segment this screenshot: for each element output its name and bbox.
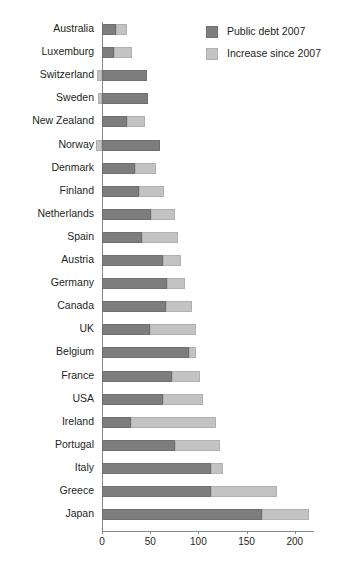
bar-segment-increase <box>98 93 102 104</box>
bar-segment-public-debt <box>102 255 163 266</box>
x-tick-label: 100 <box>178 536 218 547</box>
legend-swatch-public-debt <box>206 26 218 38</box>
bar-segment-increase <box>211 486 278 497</box>
bar-segment-public-debt <box>102 417 131 428</box>
bar-segment-increase <box>135 163 156 174</box>
category-label: Ireland <box>2 416 94 427</box>
plot-area: AustraliaLuxemburgSwitzerlandSwedenNew Z… <box>0 0 354 564</box>
legend-label-increase: Increase since 2007 <box>227 46 321 61</box>
bar-segment-increase <box>127 116 145 127</box>
category-label: Luxemburg <box>2 46 94 57</box>
category-label: Belgium <box>2 346 94 357</box>
x-tick-label: 200 <box>275 536 315 547</box>
x-tick-mark <box>102 531 103 534</box>
category-label: Switzerland <box>2 69 94 80</box>
bar-segment-public-debt <box>102 47 114 58</box>
bar-segment-public-debt <box>102 163 135 174</box>
bar-segment-public-debt <box>102 371 172 382</box>
bar-segment-public-debt <box>102 209 151 220</box>
bar-segment-public-debt <box>102 440 175 451</box>
category-label: Denmark <box>2 162 94 173</box>
category-label: Netherlands <box>2 208 94 219</box>
bar-segment-increase <box>189 347 197 358</box>
public-debt-stacked-bar-chart: AustraliaLuxemburgSwitzerlandSwedenNew Z… <box>0 0 354 564</box>
bar-segment-increase <box>96 140 102 151</box>
bar-segment-increase <box>211 463 224 474</box>
bar-segment-increase <box>163 255 181 266</box>
bar-segment-increase <box>114 47 132 58</box>
bar-segment-public-debt <box>102 394 163 405</box>
bar-segment-public-debt <box>102 93 148 104</box>
bar-segment-public-debt <box>102 301 166 312</box>
category-label: Spain <box>2 231 94 242</box>
bar-segment-public-debt <box>102 140 160 151</box>
bar-segment-public-debt <box>102 116 127 127</box>
bar-segment-increase <box>163 394 203 405</box>
category-label: Norway <box>2 139 94 150</box>
category-label: Japan <box>2 508 94 519</box>
bar-segment-public-debt <box>102 232 142 243</box>
bar-segment-public-debt <box>102 486 211 497</box>
x-tick-mark <box>247 531 248 534</box>
category-label: Portugal <box>2 439 94 450</box>
category-label: Australia <box>2 23 94 34</box>
bar-segment-public-debt <box>102 324 150 335</box>
bar-segment-public-debt <box>102 186 139 197</box>
category-label: USA <box>2 393 94 404</box>
x-tick-mark <box>150 531 151 534</box>
category-label: New Zealand <box>2 115 94 126</box>
bar-segment-public-debt <box>102 509 262 520</box>
bar-segment-increase <box>142 232 179 243</box>
bar-segment-increase <box>116 24 127 35</box>
bar-segment-increase <box>97 70 102 81</box>
category-label: UK <box>2 323 94 334</box>
bar-segment-increase <box>262 509 309 520</box>
legend-swatch-increase <box>206 48 218 60</box>
bar-segment-public-debt <box>102 24 116 35</box>
x-axis-line <box>102 531 314 532</box>
category-label: Greece <box>2 485 94 496</box>
bar-segment-public-debt <box>102 278 167 289</box>
legend-label-public-debt: Public debt 2007 <box>227 24 305 39</box>
bar-segment-public-debt <box>102 70 147 81</box>
category-label: Finland <box>2 185 94 196</box>
x-tick-label: 0 <box>82 536 122 547</box>
category-label: Germany <box>2 277 94 288</box>
category-label: Italy <box>2 462 94 473</box>
category-label: France <box>2 370 94 381</box>
category-label: Canada <box>2 300 94 311</box>
bar-segment-increase <box>150 324 196 335</box>
bar-segment-public-debt <box>102 463 211 474</box>
x-tick-label: 150 <box>227 536 267 547</box>
bar-segment-increase <box>172 371 200 382</box>
bar-segment-increase <box>131 417 216 428</box>
x-tick-mark <box>198 531 199 534</box>
x-tick-label: 50 <box>130 536 170 547</box>
category-label: Austria <box>2 254 94 265</box>
x-tick-mark <box>295 531 296 534</box>
bar-segment-increase <box>167 278 185 289</box>
bar-segment-increase <box>139 186 164 197</box>
bar-segment-increase <box>166 301 192 312</box>
category-label: Sweden <box>2 92 94 103</box>
bar-segment-increase <box>151 209 175 220</box>
bar-segment-increase <box>175 440 219 451</box>
bar-segment-public-debt <box>102 347 189 358</box>
